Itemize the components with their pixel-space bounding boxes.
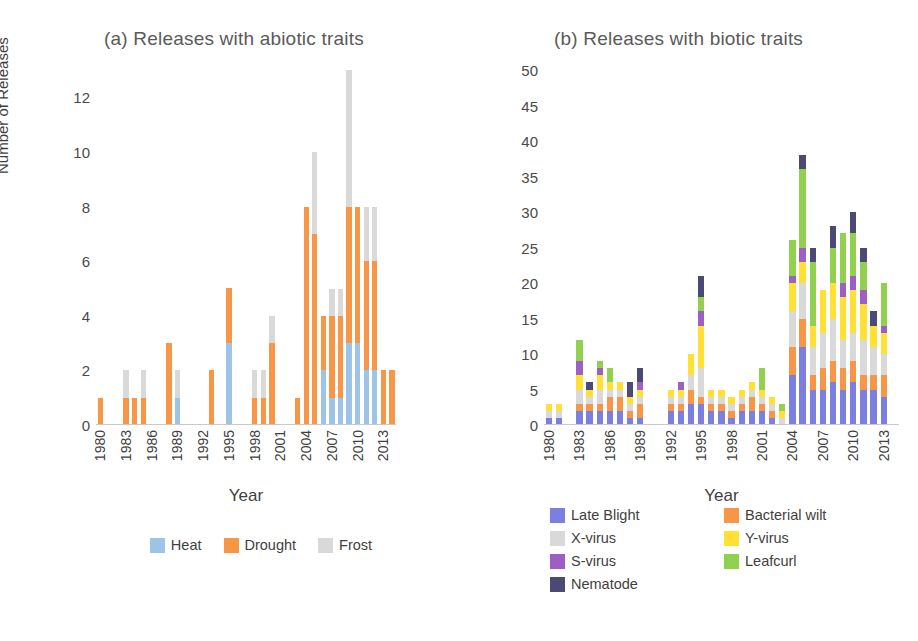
stacked-bar[interactable] [175, 370, 180, 425]
bar-segment-late-blight[interactable] [789, 375, 795, 425]
bar-segment-nematode[interactable] [850, 212, 856, 233]
stacked-bar[interactable] [556, 404, 562, 425]
bar-segment-s-virus[interactable] [799, 248, 805, 262]
bar-segment-bacterial-wilt[interactable] [789, 347, 795, 375]
stacked-bar[interactable] [338, 288, 343, 425]
bar-segment-heat[interactable] [329, 398, 334, 425]
bar-segment-drought[interactable] [141, 398, 146, 425]
bar-segment-drought[interactable] [252, 398, 257, 425]
bar-segment-leafcurl[interactable] [698, 297, 704, 311]
bar-segment-x-virus[interactable] [881, 354, 887, 375]
bar-slot[interactable] [615, 70, 625, 425]
bar-segment-y-virus[interactable] [870, 326, 876, 347]
bar-segment-x-virus[interactable] [597, 390, 603, 404]
bar-segment-bacterial-wilt[interactable] [830, 361, 836, 382]
bar-segment-bacterial-wilt[interactable] [870, 375, 876, 389]
bar-segment-heat[interactable] [346, 343, 351, 425]
bar-segment-x-virus[interactable] [617, 390, 623, 397]
bar-segment-bacterial-wilt[interactable] [627, 411, 633, 418]
bar-slot[interactable] [165, 70, 174, 425]
bar-segment-frost[interactable] [261, 370, 266, 397]
stacked-bar[interactable] [850, 212, 856, 425]
bar-slot[interactable] [268, 70, 277, 425]
bar-segment-bacterial-wilt[interactable] [840, 368, 846, 389]
bar-slot[interactable] [666, 70, 676, 425]
stacked-bar[interactable] [810, 248, 816, 426]
bar-segment-frost[interactable] [123, 370, 128, 397]
bar-segment-x-virus[interactable] [678, 397, 684, 404]
bar-slot[interactable] [737, 70, 747, 425]
bar-segment-bacterial-wilt[interactable] [810, 375, 816, 389]
bar-segment-s-virus[interactable] [789, 276, 795, 283]
bar-slot[interactable] [777, 70, 787, 425]
bar-slot[interactable] [554, 70, 564, 425]
biotic-legend-item[interactable]: X-virus [550, 531, 718, 546]
stacked-bar[interactable] [346, 70, 351, 425]
stacked-bar[interactable] [312, 152, 317, 425]
bar-segment-y-virus[interactable] [576, 375, 582, 389]
biotic-legend-item[interactable]: Y-virus [724, 531, 892, 546]
bar-slot[interactable] [767, 70, 777, 425]
bar-slot[interactable] [585, 70, 595, 425]
bar-slot[interactable] [645, 70, 655, 425]
bar-segment-x-virus[interactable] [739, 397, 745, 404]
biotic-legend-item[interactable]: Nematode [550, 577, 718, 592]
bar-segment-x-virus[interactable] [749, 390, 755, 397]
bar-segment-heat[interactable] [372, 370, 377, 425]
stacked-bar[interactable] [789, 240, 795, 425]
bar-segment-s-virus[interactable] [860, 290, 866, 304]
bar-segment-nematode[interactable] [830, 226, 836, 247]
bar-segment-late-blight[interactable] [678, 411, 684, 425]
bar-segment-y-virus[interactable] [779, 411, 785, 418]
bar-slot[interactable] [869, 70, 879, 425]
bar-slot[interactable] [818, 70, 828, 425]
bar-segment-late-blight[interactable] [718, 411, 724, 425]
bar-segment-y-virus[interactable] [556, 404, 562, 411]
stacked-bar[interactable] [252, 370, 257, 425]
bar-slot[interactable] [787, 70, 797, 425]
bar-segment-leafcurl[interactable] [779, 404, 785, 411]
bar-slot[interactable] [285, 70, 294, 425]
bar-slot[interactable] [696, 70, 706, 425]
bar-segment-bacterial-wilt[interactable] [820, 368, 826, 389]
bar-segment-y-virus[interactable] [860, 304, 866, 340]
bar-segment-leafcurl[interactable] [607, 368, 613, 382]
bar-segment-drought[interactable] [381, 370, 386, 425]
bar-segment-late-blight[interactable] [607, 411, 613, 425]
bar-segment-drought[interactable] [355, 207, 360, 344]
stacked-bar[interactable] [830, 226, 836, 425]
bar-slot[interactable] [156, 70, 165, 425]
bar-segment-frost[interactable] [364, 207, 369, 262]
bar-segment-x-virus[interactable] [698, 368, 704, 396]
bar-segment-drought[interactable] [304, 207, 309, 425]
bar-slot[interactable] [233, 70, 242, 425]
bar-segment-y-virus[interactable] [820, 290, 826, 333]
bar-segment-bacterial-wilt[interactable] [749, 397, 755, 411]
bar-segment-nematode[interactable] [860, 248, 866, 262]
abiotic-legend-item[interactable]: Frost [318, 538, 372, 553]
bar-segment-drought[interactable] [312, 234, 317, 425]
bar-segment-x-virus[interactable] [799, 283, 805, 318]
bar-segment-late-blight[interactable] [799, 347, 805, 425]
stacked-bar[interactable] [226, 288, 231, 425]
bar-segment-late-blight[interactable] [860, 390, 866, 426]
bar-segment-s-virus[interactable] [881, 326, 887, 333]
bar-slot[interactable] [388, 70, 397, 425]
bar-slot[interactable] [879, 70, 889, 425]
stacked-bar[interactable] [860, 248, 866, 426]
bar-segment-nematode[interactable] [627, 382, 633, 396]
bar-slot[interactable] [858, 70, 868, 425]
bar-segment-leafcurl[interactable] [789, 240, 795, 275]
bar-segment-drought[interactable] [321, 316, 326, 371]
bar-slot[interactable] [208, 70, 217, 425]
bar-segment-drought[interactable] [346, 207, 351, 344]
bar-segment-y-virus[interactable] [678, 390, 684, 397]
bar-segment-frost[interactable] [269, 316, 274, 343]
bar-segment-bacterial-wilt[interactable] [739, 404, 745, 411]
bar-slot[interactable] [328, 70, 337, 425]
stacked-bar[interactable] [261, 370, 266, 425]
bar-segment-nematode[interactable] [586, 382, 592, 389]
bar-segment-y-virus[interactable] [739, 390, 745, 397]
stacked-bar[interactable] [870, 311, 876, 425]
bar-segment-bacterial-wilt[interactable] [708, 404, 714, 411]
